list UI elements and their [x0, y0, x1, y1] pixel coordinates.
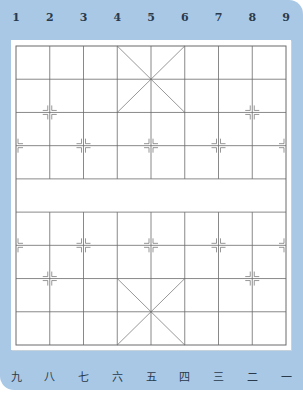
file-label-top: 5	[141, 11, 161, 24]
file-label-bottom: 九	[6, 368, 26, 384]
file-label-bottom: 五	[141, 368, 161, 384]
board-grid	[11, 40, 291, 350]
file-label-top: 4	[107, 11, 127, 24]
file-label-top: 9	[276, 11, 296, 24]
file-label-top: 8	[242, 11, 262, 24]
file-label-bottom: 二	[242, 368, 262, 384]
file-label-top: 1	[6, 11, 26, 24]
xiangqi-board[interactable]	[11, 40, 291, 350]
file-label-top: 2	[40, 11, 60, 24]
file-label-bottom: 三	[209, 368, 229, 384]
file-label-top: 7	[209, 11, 229, 24]
file-label-bottom: 四	[175, 368, 195, 384]
file-label-bottom: 八	[40, 368, 60, 384]
file-label-bottom: 一	[276, 368, 296, 384]
file-label-bottom: 六	[107, 368, 127, 384]
file-label-top: 6	[175, 11, 195, 24]
file-label-bottom: 七	[74, 368, 94, 384]
file-label-top: 3	[74, 11, 94, 24]
